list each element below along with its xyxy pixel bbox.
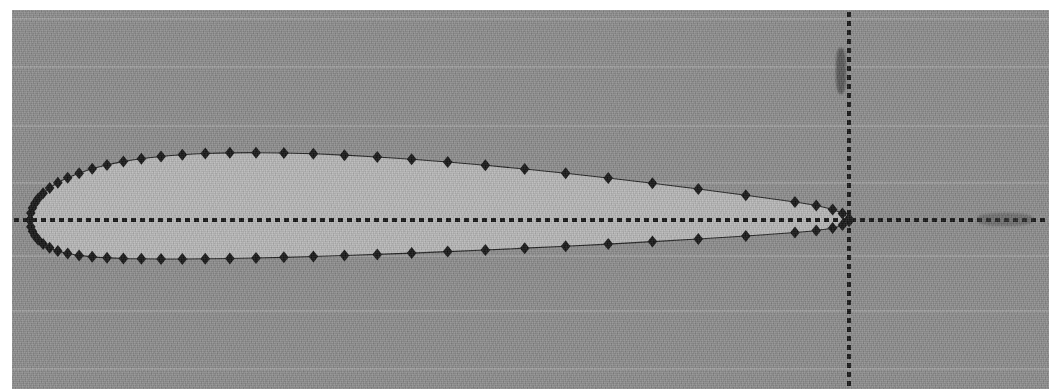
airfoil-figure (0, 0, 1057, 392)
y-axis-dotted-line (847, 10, 851, 389)
plot-area (12, 10, 1049, 389)
airfoil-plot (12, 10, 1049, 389)
x-axis-dotted-line (12, 218, 1049, 222)
scan-smudge-vertical-axis (836, 48, 846, 94)
scan-smudge-horizontal-axis (977, 213, 1033, 226)
airfoil-body (30, 153, 849, 259)
